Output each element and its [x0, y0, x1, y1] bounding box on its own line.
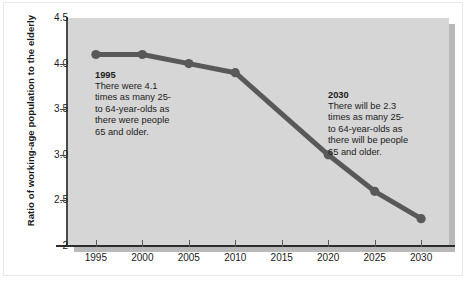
y-tick-mark	[60, 200, 68, 201]
x-tick-mark	[235, 240, 236, 247]
x-tick-mark	[421, 240, 422, 247]
data-point	[91, 50, 100, 59]
y-tick-mark	[60, 109, 68, 110]
x-tick-mark	[328, 240, 329, 247]
x-tick-mark	[96, 240, 97, 247]
x-tick-label: 2005	[167, 252, 211, 263]
y-tick: 2	[0, 241, 68, 251]
data-point	[370, 187, 379, 196]
x-tick-label: 2010	[213, 252, 257, 263]
y-tick-label: 4.5	[34, 13, 68, 23]
annotation-1995: 1995 There were 4.1 times as many 25- to…	[95, 69, 215, 138]
x-tick-label: 1995	[74, 252, 118, 263]
y-axis-spine	[66, 17, 68, 247]
annotation-1995-year: 1995	[95, 69, 215, 81]
annotation-2030: 2030 There will be 2.3 times as many 25-…	[328, 89, 456, 158]
x-tick-mark	[375, 240, 376, 247]
annotation-2030-year: 2030	[328, 89, 456, 101]
x-tick-label: 2025	[353, 252, 397, 263]
data-point	[138, 50, 147, 59]
annotation-1995-body: There were 4.1 times as many 25- to 64-y…	[95, 81, 215, 138]
chart-figure: Ratio of working-age population to the e…	[0, 0, 469, 283]
x-tick-label: 2020	[306, 252, 350, 263]
x-tick-label: 2015	[260, 252, 304, 263]
x-tick-label: 2000	[120, 252, 164, 263]
x-axis-spine	[56, 245, 455, 247]
y-tick: 4.0	[0, 59, 68, 69]
y-tick: 3.0	[0, 150, 68, 160]
y-tick: 4.5	[0, 13, 68, 23]
y-tick-mark	[60, 64, 68, 65]
data-point	[417, 214, 426, 223]
x-tick-mark	[189, 240, 190, 247]
y-tick-label: 2	[34, 241, 68, 251]
y-tick: 3.5	[0, 104, 68, 114]
x-tick-mark	[282, 240, 283, 247]
y-tick-mark	[60, 155, 68, 156]
x-tick-label: 2030	[399, 252, 443, 263]
y-tick: 2.5	[0, 195, 68, 205]
data-point	[184, 59, 193, 68]
x-tick-mark	[142, 240, 143, 247]
data-point	[231, 68, 240, 77]
annotation-2030-body: There will be 2.3 times as many 25- to 6…	[328, 101, 456, 158]
